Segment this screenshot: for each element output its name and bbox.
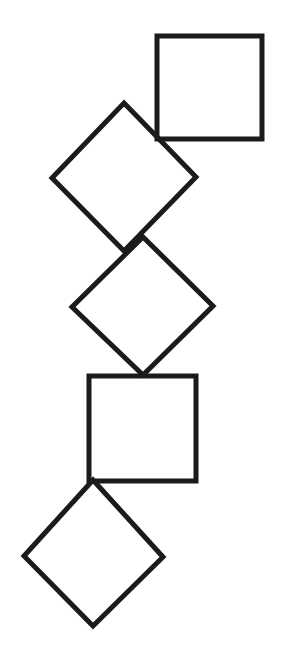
canvas-background [0, 0, 283, 663]
shape-chain-figure: Chain of five overlapping squares [0, 0, 283, 663]
